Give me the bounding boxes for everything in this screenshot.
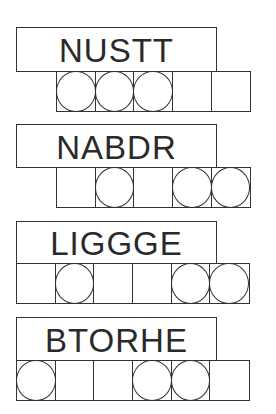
scrambled-word-box: LIGGGE (16, 221, 217, 264)
scrambled-word-box: NABDR (16, 124, 217, 168)
circle-marker-icon (16, 360, 56, 401)
answer-cell[interactable] (133, 167, 173, 208)
scrambled-word: NUSTT (59, 32, 174, 67)
scrambled-word-box: BTORHE (16, 317, 217, 361)
circle-marker-icon (209, 263, 249, 304)
answer-cell[interactable] (93, 263, 133, 304)
circle-marker-icon (133, 71, 173, 112)
scrambled-word: BTORHE (45, 322, 188, 357)
answer-cell-circled[interactable] (56, 71, 96, 112)
answer-cell[interactable] (93, 360, 133, 401)
answer-cell[interactable] (56, 167, 96, 208)
circle-marker-icon (171, 360, 211, 401)
answer-cell-circled[interactable] (132, 360, 172, 401)
answer-cell[interactable] (132, 263, 172, 304)
answer-cell-circled[interactable] (55, 263, 95, 304)
circle-marker-icon (171, 263, 211, 304)
circle-marker-icon (95, 167, 135, 208)
answer-cell-circled[interactable] (95, 71, 135, 112)
scrambled-word-box: NUSTT (16, 27, 217, 72)
answer-cell[interactable] (211, 71, 251, 112)
circle-marker-icon (95, 71, 135, 112)
circle-marker-icon (56, 71, 96, 112)
answer-cell-circled[interactable] (171, 360, 211, 401)
answer-row (16, 263, 250, 304)
scrambled-word: LIGGGE (50, 225, 183, 260)
circle-marker-icon (55, 263, 95, 304)
circle-marker-icon (132, 360, 172, 401)
answer-row (56, 167, 251, 208)
answer-cell-circled[interactable] (209, 263, 249, 304)
answer-row (56, 71, 251, 112)
answer-cell[interactable] (55, 360, 95, 401)
answer-cell[interactable] (209, 360, 249, 401)
answer-row (16, 360, 250, 401)
answer-cell-circled[interactable] (211, 167, 251, 208)
answer-cell[interactable] (16, 263, 56, 304)
answer-cell[interactable] (172, 71, 212, 112)
answer-cell-circled[interactable] (95, 167, 135, 208)
answer-cell-circled[interactable] (16, 360, 56, 401)
scrambled-word: NABDR (56, 129, 177, 164)
circle-marker-icon (172, 167, 212, 208)
answer-cell-circled[interactable] (172, 167, 212, 208)
answer-cell-circled[interactable] (133, 71, 173, 112)
circle-marker-icon (211, 167, 251, 208)
answer-cell-circled[interactable] (171, 263, 211, 304)
